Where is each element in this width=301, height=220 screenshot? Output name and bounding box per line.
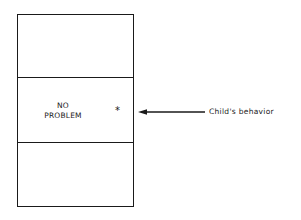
no-problem-line-1: NO [18, 101, 108, 111]
behavior-marker: * [115, 106, 120, 116]
lower-divider [18, 142, 133, 143]
no-problem-line-2: PROBLEM [18, 111, 108, 121]
problem-ownership-box: NO PROBLEM * [17, 14, 134, 207]
childs-behavior-label: Child's behavior [209, 107, 274, 117]
upper-divider [18, 77, 133, 78]
no-problem-label: NO PROBLEM [18, 101, 108, 121]
arrow-left-icon [138, 108, 206, 116]
